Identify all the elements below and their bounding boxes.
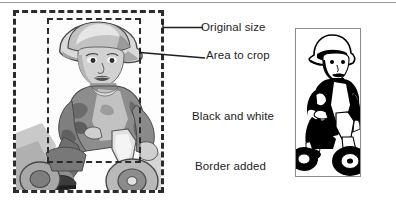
label-border-added: Border added xyxy=(195,160,266,173)
label-area-to-crop: Area to crop xyxy=(206,49,270,62)
black-white-image xyxy=(296,29,360,176)
black-white-result-panel xyxy=(295,28,361,177)
label-original-size: Original size xyxy=(201,21,266,34)
leader-line-area-to-crop xyxy=(137,46,209,64)
figure-canvas: Original size Area to crop Black and whi… xyxy=(0,0,396,204)
label-black-and-white: Black and white xyxy=(192,110,274,123)
top-rule xyxy=(0,2,396,3)
crop-area-boundary xyxy=(47,18,141,163)
